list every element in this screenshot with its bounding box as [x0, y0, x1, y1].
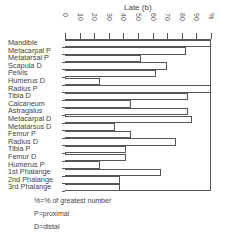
- x-tick-label: 70: [164, 13, 171, 21]
- bar: [65, 40, 211, 48]
- bar: [65, 146, 126, 154]
- x-tick-label: 20: [91, 13, 98, 21]
- legend-percent-note: %=% of greatest number: [34, 197, 111, 204]
- axis-title: Late (b): [124, 3, 152, 12]
- bar: [65, 55, 141, 63]
- category-label: 3rd Phalange: [8, 183, 51, 191]
- x-tick-label: 50: [135, 13, 142, 21]
- bar: [65, 62, 167, 70]
- x-tick-label: 30: [106, 13, 113, 21]
- bar: [65, 93, 188, 101]
- bar: [65, 131, 131, 139]
- x-tick-label: 0: [62, 13, 69, 17]
- x-tick-label: 40: [120, 13, 127, 21]
- x-tick-label: 80: [179, 13, 186, 21]
- legend-proximal-note: P=proximal: [34, 210, 69, 217]
- bar: [65, 176, 120, 184]
- bar: [65, 123, 115, 131]
- x-tick-label: %: [208, 13, 215, 19]
- x-tick-label: 90: [193, 13, 200, 21]
- x-tick-label: 60: [150, 13, 157, 21]
- x-tick-label: 10: [77, 13, 84, 21]
- bar: [65, 138, 176, 146]
- bar: [65, 100, 131, 108]
- bar: [65, 184, 120, 192]
- x-tick: [211, 33, 212, 39]
- legend-distal-note: D=distal: [34, 223, 59, 230]
- bar: [65, 85, 211, 93]
- bar: [65, 154, 126, 162]
- bar: [65, 108, 188, 116]
- bar: [65, 47, 186, 55]
- bar: [65, 161, 100, 169]
- bar: [65, 169, 161, 177]
- bar: [65, 116, 192, 124]
- bar: [65, 70, 156, 78]
- bar: [65, 78, 100, 86]
